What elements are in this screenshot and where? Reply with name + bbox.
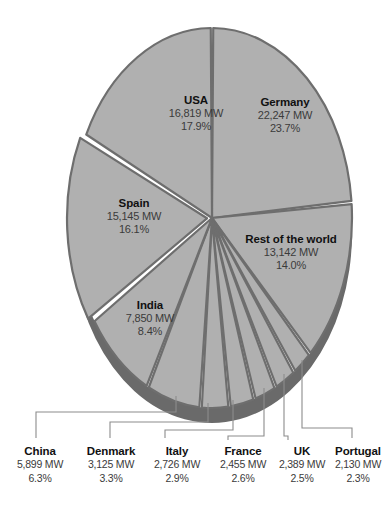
callout-label-france: France 2,455 MW 2.6% xyxy=(220,444,266,485)
callout-label-france-value: 2,455 MW xyxy=(220,458,266,471)
pie-label-spain-name: Spain xyxy=(88,196,180,210)
callout-label-uk: UK 2,389 MW 2.5% xyxy=(279,444,325,485)
callout-label-italy: Italy 2,726 MW 2.9% xyxy=(154,444,200,485)
callout-label-france-name: France xyxy=(220,444,266,458)
pie-label-germany-percent: 23.7% xyxy=(235,122,335,135)
callout-label-italy-name: Italy xyxy=(154,444,200,458)
pie-label-germany: Germany 22,247 MW 23.7% xyxy=(235,95,335,136)
pie-label-india-name: India xyxy=(104,298,196,312)
pie-chart: USA 16,819 MW 17.9% Germany 22,247 MW 23… xyxy=(0,0,392,522)
pie-label-germany-value: 22,247 MW xyxy=(235,109,335,122)
pie-label-india: India 7,850 MW 8.4% xyxy=(104,298,196,339)
callout-label-denmark-name: Denmark xyxy=(87,444,136,458)
callout-label-portugal-value: 2,130 MW xyxy=(335,458,381,471)
callout-label-uk-name: UK xyxy=(279,444,325,458)
pie-label-germany-name: Germany xyxy=(235,95,335,109)
pie-label-spain-percent: 16.1% xyxy=(88,223,180,236)
pie-label-india-value: 7,850 MW xyxy=(104,312,196,325)
callout-label-china-value: 5,899 MW xyxy=(17,458,63,471)
callout-label-denmark-value: 3,125 MW xyxy=(87,458,136,471)
pie-label-rest-of-the-world-name: Rest of the world xyxy=(228,232,354,246)
pie-label-rest-of-the-world-value: 13,142 MW xyxy=(228,246,354,259)
callout-label-uk-percent: 2.5% xyxy=(279,472,325,485)
callout-label-china: China 5,899 MW 6.3% xyxy=(17,444,63,485)
callout-label-france-percent: 2.6% xyxy=(220,472,266,485)
pie-label-spain: Spain 15,145 MW 16.1% xyxy=(88,196,180,237)
pie-label-usa-percent: 17.9% xyxy=(150,120,242,133)
callout-label-china-percent: 6.3% xyxy=(17,472,63,485)
callout-label-uk-value: 2,389 MW xyxy=(279,458,325,471)
pie-label-usa-value: 16,819 MW xyxy=(150,107,242,120)
callout-label-denmark: Denmark 3,125 MW 3.3% xyxy=(87,444,136,485)
callout-label-italy-value: 2,726 MW xyxy=(154,458,200,471)
callout-label-denmark-percent: 3.3% xyxy=(87,472,136,485)
callout-label-portugal-percent: 2.3% xyxy=(335,472,381,485)
callout-label-china-name: China xyxy=(17,444,63,458)
leader-line-portugal xyxy=(302,360,352,438)
callout-label-portugal: Portugal 2,130 MW 2.3% xyxy=(335,444,381,485)
pie-label-spain-value: 15,145 MW xyxy=(88,210,180,223)
pie-label-rest-of-the-world-percent: 14.0% xyxy=(228,259,354,272)
callout-label-portugal-name: Portugal xyxy=(335,444,381,458)
pie-label-rest-of-the-world: Rest of the world 13,142 MW 14.0% xyxy=(228,232,354,273)
callout-label-italy-percent: 2.9% xyxy=(154,472,200,485)
pie-label-india-percent: 8.4% xyxy=(104,325,196,338)
pie-label-usa-name: USA xyxy=(150,93,242,107)
pie-label-usa: USA 16,819 MW 17.9% xyxy=(150,93,242,134)
